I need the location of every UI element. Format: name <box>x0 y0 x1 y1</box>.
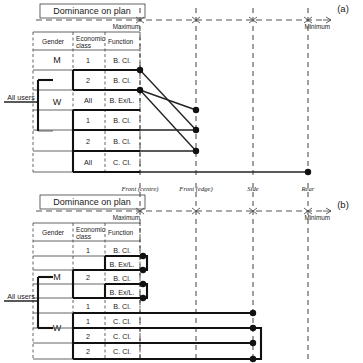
gender-cell-w-a: W <box>53 97 62 107</box>
econ-cell-b-6: 2 <box>86 332 90 341</box>
func-cell-a-5: C. Cl. <box>113 158 131 167</box>
panel-b: Front (centre) Front (edge) Side Rear Do… <box>0 181 363 362</box>
func-cell-a-2: B. Ex/L. <box>109 96 134 105</box>
func-cell-b-1: B. Ex/L. <box>109 260 134 269</box>
gender-cell-m-b: M <box>53 272 61 282</box>
dot-b-3 <box>140 295 146 301</box>
dot-b-4 <box>250 310 256 316</box>
func-cell-b-0: B. Cl. <box>113 246 131 255</box>
func-cell-b-4: B. Cl. <box>113 302 131 311</box>
root-label-b: All users <box>7 292 35 301</box>
dot-a-2 <box>193 107 199 113</box>
column-header-economic-line1-a: Economic <box>76 35 106 42</box>
func-cell-b-7: C. Cl. <box>113 347 131 356</box>
func-cell-b-6: C. Cl. <box>113 332 131 341</box>
dot-a-1 <box>137 87 143 93</box>
category-guides-b <box>140 183 308 359</box>
axis-ticks-b <box>136 208 312 214</box>
root-label-a: All users <box>7 93 35 102</box>
column-header-economic-line2-a: class <box>76 42 92 49</box>
maximum-label-a: Maximum <box>113 23 140 30</box>
dot-b-5 <box>250 325 256 331</box>
dot-b-7 <box>250 356 256 362</box>
func-cell-a-0: B. Cl. <box>113 56 131 65</box>
column-header-function-b: Function <box>108 229 134 236</box>
func-cell-b-2: B. Cl. <box>113 274 131 283</box>
maximum-label-b: Maximum <box>113 214 140 221</box>
econ-cell-a-1: 2 <box>86 76 90 85</box>
dot-b-6 <box>250 340 256 346</box>
econ-cell-b-0: 1 <box>86 246 90 255</box>
func-cell-b-3: B. Ex/L. <box>109 288 134 297</box>
axis-ticks-a <box>136 17 312 23</box>
dot-a-0 <box>137 67 143 73</box>
dot-a-5 <box>305 169 311 175</box>
func-cell-a-1: B. Cl. <box>113 76 131 85</box>
gender-tree-a <box>38 80 53 131</box>
dominance-label-a: Dominance on plan <box>53 6 131 16</box>
dominance-dots-a <box>137 67 311 175</box>
panel-label-a: (a) <box>337 3 349 14</box>
dot-b-2 <box>140 281 146 287</box>
econ-cell-b-5: 1 <box>86 317 90 326</box>
dominance-dots-b <box>140 253 256 362</box>
dot-a-4 <box>193 148 199 154</box>
econ-cell-b-4: 1 <box>86 302 90 311</box>
panel-label-b: (b) <box>337 199 349 210</box>
econ-cell-b-7: 2 <box>86 347 90 356</box>
econ-cell-a-4: 2 <box>86 137 90 146</box>
func-cell-a-3: B. Cl. <box>113 116 131 125</box>
leader-lines-b-w <box>73 313 261 359</box>
func-cell-b-5: C. Cl. <box>113 317 131 326</box>
dot-b-0 <box>140 253 146 259</box>
econ-cell-a-0: 1 <box>86 56 90 65</box>
gender-cell-w-b: W <box>53 323 62 333</box>
econ-cell-b-2: 2 <box>86 273 90 282</box>
dominance-label-b: Dominance on plan <box>53 197 131 207</box>
func-cell-a-4: B. Cl. <box>113 137 131 146</box>
column-header-function-a: Function <box>108 38 134 45</box>
econ-cell-a-2: All <box>84 96 92 105</box>
gender-tree-b <box>38 277 53 328</box>
column-header-gender-a: Gender <box>42 38 65 45</box>
econ-cell-a-3: 1 <box>86 116 90 125</box>
gender-cell-m-a: M <box>53 55 61 65</box>
column-header-economic-line2-b: class <box>76 233 92 240</box>
econ-cell-a-5: All <box>84 158 92 167</box>
dominance-connectors-a <box>140 70 308 172</box>
dot-a-3 <box>193 127 199 133</box>
panel-a: Dominance on plan Maximum Minimum <box>0 0 363 181</box>
column-header-gender-b: Gender <box>42 229 65 236</box>
dot-b-1 <box>140 267 146 273</box>
column-header-economic-line1-b: Economic <box>76 226 106 233</box>
